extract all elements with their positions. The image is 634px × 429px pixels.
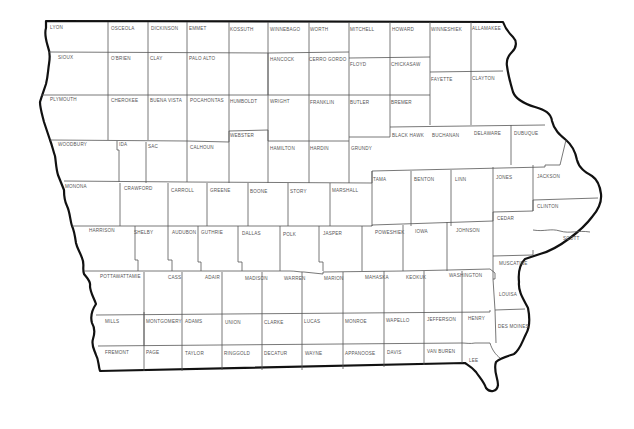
county-label-webster: WEBSTER <box>230 133 254 138</box>
county-label-fremont: FREMONT <box>105 350 129 355</box>
county-label-jones: JONES <box>496 175 512 180</box>
county-label-iowa: IOWA <box>415 229 428 234</box>
county-label-clarke: CLARKE <box>264 320 284 325</box>
county-label-woodbury: WOODBURY <box>58 142 87 147</box>
county-label-henry: HENRY <box>468 316 485 321</box>
county-label-butler: BUTLER <box>350 100 369 105</box>
county-label-madison: MADISON <box>245 276 268 281</box>
county-label-louisa: LOUISA <box>499 292 517 297</box>
county-label-mahaska: MAHASKA <box>365 275 389 280</box>
county-label-franklin: FRANKLIN <box>310 100 334 105</box>
county-label-washington: WASHINGTON <box>449 273 482 278</box>
county-label-lyon: LYON <box>50 25 63 30</box>
county-label-des-moines: DES MOINES <box>498 324 529 329</box>
county-label-black-hawk: BLACK HAWK <box>392 133 424 138</box>
county-label-wapello: WAPELLO <box>386 318 409 323</box>
county-label-shelby: SHELBY <box>134 230 153 235</box>
county-label-carroll: CARROLL <box>171 188 194 193</box>
county-label-clinton: CLINTON <box>537 204 558 209</box>
county-label-appanoose: APPANOOSE <box>345 351 375 356</box>
county-label-lee: LEE <box>469 358 478 363</box>
county-label-warren: WARREN <box>284 276 305 281</box>
county-label-howard: HOWARD <box>392 27 414 32</box>
county-label-montgomery: MONTGOMERY <box>146 319 182 324</box>
county-label-lucas: LUCAS <box>304 319 320 324</box>
county-label-ringgold: RINGGOLD <box>224 351 250 356</box>
county-label-jefferson: JEFFERSON <box>427 317 456 322</box>
county-label-hardin: HARDIN <box>310 146 329 151</box>
county-label-winneshiek: WINNESHIEK <box>431 27 462 32</box>
county-label-palo-alto: PALO ALTO <box>189 56 215 61</box>
county-label-boone: BOONE <box>250 189 268 194</box>
county-label-cerro-gordo: CERRO GORDO <box>309 57 346 62</box>
county-label-ida: IDA <box>119 142 127 147</box>
county-label-worth: WORTH <box>310 27 328 32</box>
county-label-adams: ADAMS <box>185 319 202 324</box>
county-label-hamilton: HAMILTON <box>270 146 295 151</box>
county-label-davis: DAVIS <box>387 350 401 355</box>
county-label-keokuk: KEOKUK <box>406 275 426 280</box>
county-label-benton: BENTON <box>414 177 434 182</box>
county-label-calhoun: CALHOUN <box>190 145 214 150</box>
county-label-winnebago: WINNEBAGO <box>270 27 300 32</box>
county-label-linn: LINN <box>455 177 466 182</box>
county-label-o-brien: O'BRIEN <box>111 56 131 61</box>
county-label-dallas: DALLAS <box>242 231 261 236</box>
county-label-monroe: MONROE <box>345 319 367 324</box>
county-label-greene: GREENE <box>210 188 231 193</box>
county-label-humboldt: HUMBOLDT <box>230 99 257 104</box>
county-label-mitchell: MITCHELL <box>350 27 374 32</box>
county-label-plymouth: PLYMOUTH <box>50 97 77 102</box>
county-label-van-buren: VAN BUREN <box>427 349 455 354</box>
county-label-wayne: WAYNE <box>305 351 322 356</box>
county-label-allamakee: ALLAMAKEE <box>472 26 501 31</box>
county-label-audubon: AUDUBON <box>172 230 196 235</box>
county-label-sioux: SIOUX <box>58 55 73 60</box>
county-label-cedar: CEDAR <box>497 216 514 221</box>
county-label-dickinson: DICKINSON <box>151 26 178 31</box>
county-label-bremer: BREMER <box>391 100 412 105</box>
county-label-cherokee: CHEROKEE <box>111 98 138 103</box>
county-label-kossuth: KOSSUTH <box>230 27 254 32</box>
county-label-emmet: EMMET <box>189 26 207 31</box>
county-label-scott: SCOTT <box>563 236 580 241</box>
county-label-harrison: HARRISON <box>89 228 115 233</box>
county-label-floyd: FLOYD <box>350 62 366 67</box>
county-label-delaware: DELAWARE <box>474 131 501 136</box>
county-label-pocahontas: POCAHONTAS <box>190 98 224 103</box>
county-label-polk: POLK <box>283 232 296 237</box>
county-label-johnson: JOHNSON <box>456 228 480 233</box>
county-label-clayton: CLAYTON <box>472 76 495 81</box>
county-label-dubuque: DUBUQUE <box>514 131 538 136</box>
county-label-marshall: MARSHALL <box>332 188 358 193</box>
county-label-poweshiek: POWESHIEK <box>375 230 405 235</box>
county-label-page: PAGE <box>146 350 159 355</box>
county-label-buena-vista: BUENA VISTA <box>150 98 182 103</box>
county-label-osceola: OSCEOLA <box>111 26 135 31</box>
county-label-clay: CLAY <box>150 56 162 61</box>
county-label-sac: SAC <box>148 144 158 149</box>
county-label-adair: ADAIR <box>205 275 220 280</box>
county-label-muscatine: MUSCATINE <box>499 261 528 266</box>
county-label-fayette: FAYETTE <box>431 77 452 82</box>
county-label-mills: MILLS <box>105 319 119 324</box>
county-label-wright: WRIGHT <box>270 99 290 104</box>
county-label-tama: TAMA <box>373 177 386 182</box>
county-label-pottawattamie: POTTAWATTAMIE <box>100 274 141 279</box>
county-label-hancock: HANCOCK <box>270 57 294 62</box>
county-label-taylor: TAYLOR <box>185 351 204 356</box>
county-label-union: UNION <box>225 320 241 325</box>
county-label-marion: MARION <box>324 276 344 281</box>
county-label-story: STORY <box>290 189 307 194</box>
county-label-monona: MONONA <box>65 184 87 189</box>
state-boundary <box>40 21 601 391</box>
county-label-decatur: DECATUR <box>264 351 287 356</box>
county-label-cass: CASS <box>168 275 181 280</box>
county-label-grundy: GRUNDY <box>351 146 372 151</box>
county-label-jasper: JASPER <box>323 231 342 236</box>
county-label-chickasaw: CHICKASAW <box>391 62 420 67</box>
county-label-buchanan: BUCHANAN <box>432 133 459 138</box>
county-label-crawford: CRAWFORD <box>124 186 152 191</box>
iowa-county-map <box>0 0 634 429</box>
county-label-jackson: JACKSON <box>537 174 560 179</box>
